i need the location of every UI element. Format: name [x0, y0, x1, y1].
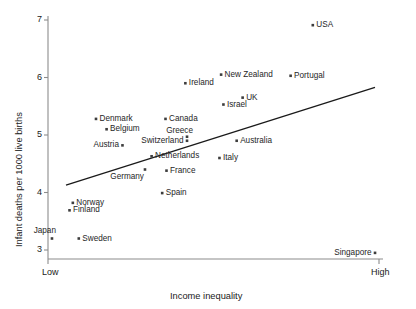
y-axis-tick-7: 7 — [30, 14, 42, 24]
point-label: New Zealand — [225, 70, 273, 79]
point-label: USA — [316, 20, 333, 29]
data-point — [312, 24, 315, 27]
point-label: Belgium — [110, 124, 140, 133]
data-point — [105, 128, 108, 131]
y-axis-title: Infant deaths per 1000 live births — [14, 112, 24, 247]
data-point — [222, 103, 225, 106]
point-label: Germany — [110, 172, 144, 181]
data-point — [121, 144, 124, 147]
point-label: UK — [246, 93, 257, 102]
point-label: Japan — [34, 226, 56, 235]
y-axis-tick-4: 4 — [30, 187, 42, 197]
point-label: Israel — [227, 100, 247, 109]
point-label: Netherlands — [155, 151, 199, 160]
data-point — [218, 157, 221, 160]
data-point — [289, 74, 292, 77]
point-label: Finland — [73, 205, 100, 214]
data-point — [184, 82, 187, 85]
y-axis-tick-6: 6 — [30, 72, 42, 82]
plot-canvas — [0, 0, 416, 309]
data-point — [72, 202, 75, 205]
x-axis-tick-high: High — [371, 267, 390, 277]
y-axis-tick-5: 5 — [30, 129, 42, 139]
data-point — [235, 139, 238, 142]
point-label: Portugal — [294, 71, 325, 80]
point-label: Austria — [93, 140, 118, 149]
data-point — [165, 169, 168, 172]
point-label: Spain — [166, 188, 187, 197]
y-axis-tick-3: 3 — [30, 244, 42, 254]
point-label: Canada — [169, 114, 198, 123]
data-point — [68, 209, 71, 212]
data-point — [161, 192, 164, 195]
x-axis-title: Income inequality — [170, 291, 242, 301]
data-point — [374, 252, 377, 255]
data-point — [95, 118, 98, 121]
data-point — [51, 237, 54, 240]
data-point — [186, 139, 189, 142]
data-point — [220, 73, 223, 76]
point-label: Australia — [240, 136, 272, 145]
data-point — [77, 237, 80, 240]
data-point — [144, 168, 147, 171]
point-label: Greece — [166, 126, 193, 135]
data-point — [150, 155, 153, 158]
point-label: Ireland — [189, 78, 214, 87]
x-axis-tick-low: Low — [42, 267, 59, 277]
point-label: Switzerland — [141, 136, 183, 145]
data-point — [164, 118, 167, 121]
scatter-plot-figure: Infant deaths per 1000 live births Incom… — [0, 0, 416, 309]
point-label: Denmark — [99, 114, 132, 123]
data-point — [186, 135, 189, 138]
point-label: France — [170, 166, 195, 175]
point-label: Italy — [223, 153, 238, 162]
trend-line — [66, 87, 375, 185]
point-label: Sweden — [82, 234, 112, 243]
point-label: Singapore — [334, 248, 371, 257]
